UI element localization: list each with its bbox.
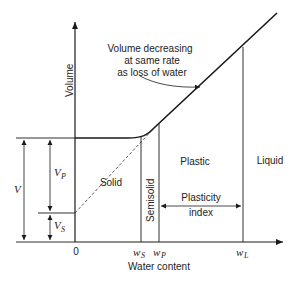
annotation-line-1: Volume decreasing	[107, 43, 192, 54]
svg-text:P: P	[60, 172, 66, 181]
atterberg-diagram: Volume Water content 0 Volume decreasing…	[0, 0, 297, 286]
vs-label: V S	[54, 219, 65, 234]
svg-text:P: P	[160, 251, 166, 260]
svg-text:L: L	[243, 251, 249, 260]
origin-label: 0	[73, 246, 79, 257]
x-axis-label: Water content	[128, 261, 190, 272]
vp-label: V P	[54, 166, 66, 181]
wp-marker: w P	[153, 246, 166, 260]
svg-text:S: S	[141, 251, 145, 260]
dashed-extrapolation-line	[75, 128, 154, 213]
svg-text:S: S	[61, 225, 65, 234]
region-liquid: Liquid	[257, 155, 284, 166]
annotation-line-3: as loss of water	[117, 67, 187, 78]
y-axis-label: Volume	[64, 63, 75, 97]
region-solid: Solid	[100, 177, 122, 188]
plasticity-index-line-2: index	[189, 207, 213, 218]
v-total-label: V	[14, 183, 22, 195]
plasticity-index-line-1: Plasticity	[181, 192, 220, 203]
svg-text:w: w	[236, 246, 244, 258]
region-semisolid: Semisolid	[145, 179, 156, 222]
annotation-line-2: at same rate	[124, 55, 180, 66]
ws-marker: w S	[133, 246, 145, 260]
svg-text:w: w	[133, 246, 141, 258]
wl-marker: w L	[236, 246, 249, 260]
svg-text:w: w	[153, 246, 161, 258]
region-plastic: Plastic	[180, 156, 209, 167]
